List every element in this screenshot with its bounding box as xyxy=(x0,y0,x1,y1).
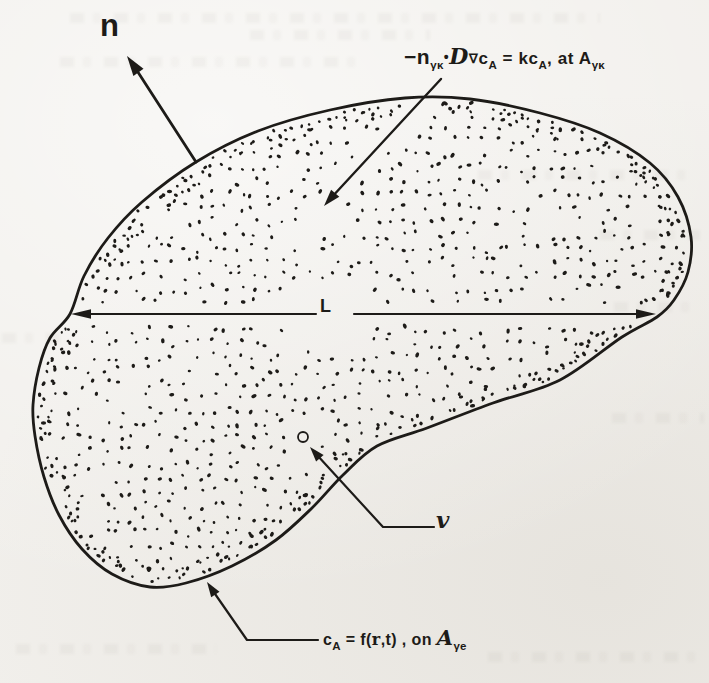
entrance-equals-f: = f( xyxy=(341,631,372,648)
entrance-c: c xyxy=(323,631,332,648)
velocity-point-marker xyxy=(298,432,308,442)
interfacial-flux-bc-label: −nγκ•D∇cA = kcA, at Aγκ xyxy=(404,43,605,71)
flux-sub-A2: A xyxy=(539,59,548,71)
entrance-leader-arrow xyxy=(207,582,318,640)
length-arrow-right-head xyxy=(636,309,656,319)
flux-minus-n: −n xyxy=(404,45,430,68)
entrance-position-vector-r: r xyxy=(372,630,381,649)
flux-c: c xyxy=(479,49,489,68)
medium-outline xyxy=(33,97,692,588)
flux-equals-kc: = kc xyxy=(497,49,538,68)
flux-bc-leader-arrow xyxy=(324,79,441,206)
stipple-texture xyxy=(36,100,686,583)
flux-sub-gamma-kappa-1: γκ xyxy=(430,59,443,71)
porous-medium-diagram xyxy=(0,0,709,683)
length-arrow-right xyxy=(354,309,656,319)
flux-script-D: D xyxy=(449,43,469,69)
normal-vector-label: n xyxy=(100,8,119,44)
velocity-script-v: v xyxy=(436,506,449,533)
length-scale-label: L xyxy=(320,296,331,317)
entrance-bc-label: cA = f(r,t) , on Aγe xyxy=(323,625,467,652)
entrance-leader-arrow-head xyxy=(207,582,220,597)
length-arrow-left-head xyxy=(71,309,91,319)
figure-canvas: n −nγκ•D∇cA = kcA, at Aγκ L v cA = f(r,t… xyxy=(0,0,709,683)
flux-sub-gamma-kappa-2: γκ xyxy=(592,59,605,71)
velocity-point-label: v xyxy=(436,506,449,533)
outward-normal-arrow-head xyxy=(127,56,144,76)
nabla-icon: ∇ xyxy=(469,51,479,66)
velocity-leader-arrow xyxy=(310,447,434,527)
entrance-sub-gamma-e: γe xyxy=(453,640,466,652)
outward-normal-arrow xyxy=(127,56,196,162)
entrance-script-A: A xyxy=(437,625,454,650)
flux-comma-at: , at A xyxy=(547,49,592,68)
flux-sub-A1: A xyxy=(489,59,498,71)
entrance-sub-A: A xyxy=(332,640,341,652)
entrance-t-on: ,t) , on xyxy=(381,631,437,648)
length-arrow-left xyxy=(71,309,316,319)
